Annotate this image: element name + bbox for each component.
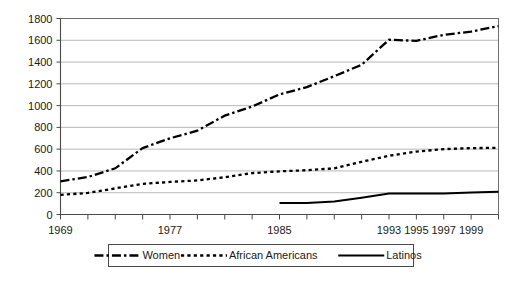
series-line-women [61,26,499,181]
series-group [61,26,499,203]
x-tick-label: 1995 [404,224,428,236]
series-line-latinos [280,192,499,203]
legend-label: African Americans [229,249,318,261]
x-tick-label: 1985 [267,224,291,236]
y-tick-label: 1800 [28,13,52,25]
y-tick-label: 1000 [28,100,52,112]
x-tick-label: 1977 [158,224,182,236]
legend-label: Women [142,249,180,261]
line-chart: 180016001400120010008006004002000 196919… [0,0,522,284]
y-tick-label: 0 [46,209,52,221]
x-tick-label: 1999 [459,224,483,236]
plot-area-border [61,19,499,215]
y-tick-label: 400 [34,165,52,177]
x-tick-label: 1997 [432,224,456,236]
y-tick-label: 800 [34,121,52,133]
chart-legend: WomenAfrican AmericansLatinos [94,245,422,267]
y-tick-label: 200 [34,187,52,199]
chart-canvas: 180016001400120010008006004002000 196919… [0,0,522,284]
y-axis-group: 180016001400120010008006004002000 [28,13,60,221]
x-axis-group: 1969197719851993199519971999 [48,215,498,236]
plot-frame [61,19,499,215]
gridlines-group [61,19,499,193]
y-tick-label: 1600 [28,34,52,46]
legend-label: Latinos [386,249,422,261]
series-line-african-americans [61,148,499,195]
x-tick-label: 1993 [377,224,401,236]
y-tick-label: 1400 [28,56,52,68]
y-tick-label: 600 [34,143,52,155]
x-tick-label: 1969 [48,224,72,236]
y-tick-label: 1200 [28,78,52,90]
